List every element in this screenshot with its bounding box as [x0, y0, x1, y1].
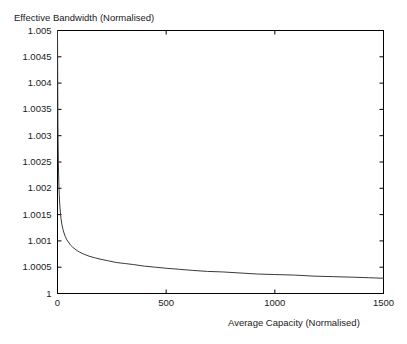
y-tick-label: 1.0005	[4, 262, 52, 272]
y-tick-label: 1.0035	[4, 104, 52, 114]
y-tick-label: 1.0015	[4, 210, 52, 220]
figure-container: Effective Bandwidth (Normalised) 11.0005…	[0, 0, 407, 344]
plot-area	[0, 0, 407, 344]
x-tick-label: 1000	[264, 298, 285, 308]
tick-marks	[58, 31, 384, 294]
y-tick-label: 1.002	[4, 183, 52, 193]
y-tick-label: 1.003	[4, 131, 52, 141]
y-tick-label: 1.0025	[4, 157, 52, 167]
x-tick-label: 0	[55, 298, 60, 308]
y-tick-label: 1.0045	[4, 52, 52, 62]
x-tick-label: 1500	[373, 298, 394, 308]
y-tick-label: 1.005	[4, 26, 52, 36]
x-tick-label: 500	[158, 298, 174, 308]
y-tick-label: 1.004	[4, 78, 52, 88]
y-tick-label: 1	[4, 289, 52, 299]
axes-box	[58, 31, 384, 294]
y-tick-label: 1.001	[4, 236, 52, 246]
data-curve	[58, 31, 384, 279]
x-axis-label: Average Capacity (Normalised)	[228, 317, 360, 328]
